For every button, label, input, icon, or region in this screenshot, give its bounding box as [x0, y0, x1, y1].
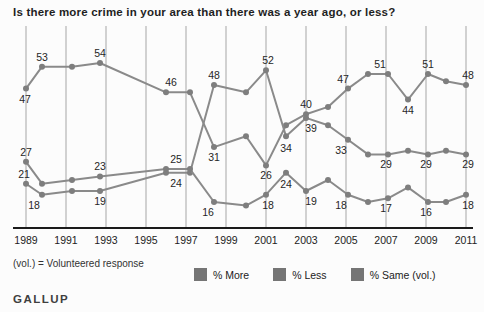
point-label: 29 — [380, 158, 392, 170]
legend-label: % Less — [292, 269, 326, 281]
point-label: 16 — [420, 206, 432, 218]
legend-label: % Same (vol.) — [370, 269, 436, 281]
crime-trend-line-chart: 1989199119931995199719992001200320052007… — [0, 0, 484, 256]
data-point — [163, 89, 169, 95]
x-tick-label-1995: 1995 — [134, 234, 158, 246]
x-tick-label-1997: 1997 — [174, 234, 198, 246]
x-tick-label-2005: 2005 — [334, 234, 358, 246]
data-point — [243, 133, 249, 139]
point-label: 18 — [28, 199, 40, 211]
data-point — [425, 151, 431, 157]
point-label: 19 — [305, 195, 317, 207]
x-tick-label-1991: 1991 — [54, 234, 78, 246]
data-point — [39, 192, 45, 198]
data-point — [187, 166, 193, 172]
data-point — [69, 188, 75, 194]
x-tick-label-2007: 2007 — [374, 234, 398, 246]
x-tick-label-1989: 1989 — [14, 234, 38, 246]
series-line-2 — [26, 162, 466, 206]
data-point — [263, 67, 269, 73]
point-label: 52 — [262, 54, 274, 66]
x-tick-label-1993: 1993 — [94, 234, 118, 246]
data-point — [325, 177, 331, 183]
data-point — [303, 188, 309, 194]
data-point — [211, 144, 217, 150]
data-point — [425, 199, 431, 205]
data-point — [283, 133, 289, 139]
point-label: 47 — [337, 73, 349, 85]
data-point — [385, 195, 391, 201]
data-point — [39, 181, 45, 187]
x-tick-label-1999: 1999 — [214, 234, 238, 246]
point-label: 24 — [170, 177, 182, 189]
legend-item-1: % Less — [273, 268, 326, 281]
data-point — [365, 71, 371, 77]
point-label: 44 — [402, 104, 414, 116]
point-label: 46 — [165, 76, 177, 88]
point-label: 33 — [335, 144, 347, 156]
data-point — [345, 86, 351, 92]
gallup-brand-wordmark: GALLUP — [13, 293, 69, 305]
legend-swatch-icon — [194, 268, 207, 281]
data-point — [23, 86, 29, 92]
point-label: 16 — [202, 206, 214, 218]
point-label: 51 — [422, 58, 434, 70]
data-point — [365, 199, 371, 205]
data-point — [405, 148, 411, 154]
point-label: 27 — [20, 146, 32, 158]
data-point — [405, 97, 411, 103]
data-point — [69, 64, 75, 70]
data-point — [211, 199, 217, 205]
legend-item-0: % More — [194, 268, 249, 281]
data-point — [463, 82, 469, 88]
point-label: 29 — [462, 158, 474, 170]
point-label: 48 — [208, 69, 220, 81]
data-point — [97, 173, 103, 179]
point-label: 17 — [380, 202, 392, 214]
point-label: 31 — [208, 151, 220, 163]
chart-legend: % More% Less% Same (vol.) — [194, 268, 436, 281]
data-point — [405, 184, 411, 190]
x-tick-label-2003: 2003 — [294, 234, 318, 246]
point-label: 48 — [462, 69, 474, 81]
point-label: 29 — [420, 158, 432, 170]
legend-swatch-icon — [351, 268, 364, 281]
data-point — [345, 137, 351, 143]
data-point — [325, 122, 331, 128]
data-point — [463, 192, 469, 198]
data-point — [425, 71, 431, 77]
data-point — [365, 151, 371, 157]
data-point — [211, 82, 217, 88]
x-tick-label-2011: 2011 — [455, 234, 478, 246]
volunteered-response-footnote: (vol.) = Volunteered response — [13, 258, 144, 269]
data-point — [443, 148, 449, 154]
legend-label: % More — [213, 269, 249, 281]
point-label: 54 — [94, 47, 106, 59]
data-point — [463, 151, 469, 157]
point-label: 18 — [262, 199, 274, 211]
data-point — [443, 78, 449, 84]
point-label: 19 — [94, 195, 106, 207]
point-label: 24 — [280, 178, 292, 190]
data-point — [69, 177, 75, 183]
point-label: 21 — [18, 168, 30, 180]
data-point — [263, 162, 269, 168]
point-label: 18 — [335, 199, 347, 211]
data-point — [97, 60, 103, 66]
point-label: 51 — [374, 58, 386, 70]
data-point — [187, 89, 193, 95]
data-point — [345, 192, 351, 198]
point-label: 25 — [170, 153, 182, 165]
point-label: 23 — [94, 160, 106, 172]
legend-item-2: % Same (vol.) — [351, 268, 436, 281]
point-label: 39 — [305, 122, 317, 134]
data-point — [385, 71, 391, 77]
data-point — [23, 159, 29, 165]
data-point — [263, 192, 269, 198]
data-point — [283, 170, 289, 176]
point-label: 47 — [19, 93, 31, 105]
x-tick-label-2009: 2009 — [414, 234, 438, 246]
data-point — [325, 104, 331, 110]
data-point — [443, 199, 449, 205]
data-point — [163, 166, 169, 172]
